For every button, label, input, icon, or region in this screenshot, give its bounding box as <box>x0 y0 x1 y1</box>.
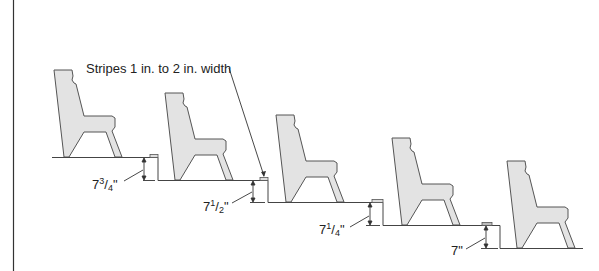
chair-4 <box>392 138 460 225</box>
leader-arrowhead <box>261 171 266 177</box>
riser-label-1: 73/4" <box>92 177 118 193</box>
chair-2 <box>165 93 233 180</box>
riser-label-3: 71/4" <box>319 222 345 238</box>
stripe-2 <box>260 178 268 181</box>
chair-5 <box>507 161 575 248</box>
dimension-2 <box>232 181 265 203</box>
riser-label-4: 7" <box>451 244 463 257</box>
dimension-3 <box>350 203 380 227</box>
stepped-seating-drawing <box>0 0 599 271</box>
stripe-1 <box>150 155 158 158</box>
riser-label-2: 71/2" <box>203 199 229 215</box>
dimension-4 <box>466 226 498 249</box>
dimension-1 <box>124 158 155 181</box>
stripe-3 <box>372 200 383 203</box>
stripe-annotation: Stripes 1 in. to 2 in. width <box>86 62 231 75</box>
diagram-canvas: Stripes 1 in. to 2 in. width 73/4" 71/2"… <box>0 0 599 271</box>
stripe-leader-line <box>229 68 264 176</box>
chair-3 <box>276 115 344 202</box>
chair-1 <box>54 70 122 157</box>
stripe-4 <box>482 223 492 226</box>
